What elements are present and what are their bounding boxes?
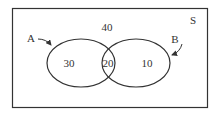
set-b-arrow-icon — [172, 44, 182, 55]
venn-diagram: S 40 A B 30 20 10 — [0, 0, 218, 116]
set-b-label: B — [171, 33, 178, 45]
set-a-only-value: 30 — [64, 57, 76, 69]
intersection-value: 20 — [103, 57, 115, 69]
set-a-label: A — [27, 32, 35, 44]
set-b-only-value: 10 — [142, 57, 154, 69]
set-a-arrow-icon — [38, 39, 51, 45]
universe-label: S — [190, 14, 196, 26]
outside-value: 40 — [102, 21, 114, 33]
